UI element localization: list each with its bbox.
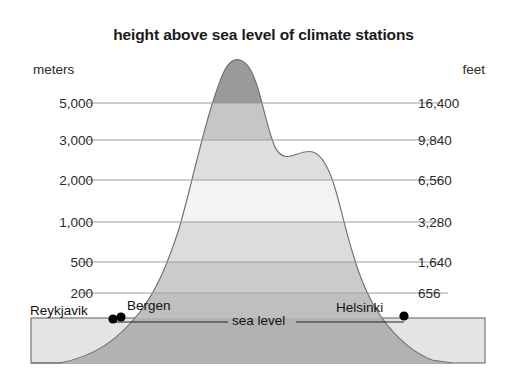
station-label-helsinki: Helsinki — [336, 300, 383, 315]
tick-label-right-3: 3,280 — [418, 215, 488, 230]
station-marker-helsinki — [399, 311, 408, 320]
station-marker-reykjavik — [108, 314, 117, 323]
station-marker-bergen — [116, 312, 125, 321]
station-label-bergen: Bergen — [127, 298, 171, 313]
tick-label-right-5: 656 — [418, 286, 488, 301]
tick-label-right-0: 16,400 — [418, 96, 488, 111]
band-above-5000 — [0, 0, 527, 103]
tick-label-left-5: 200 — [25, 286, 93, 301]
station-label-reykjavik: Reykjavik — [30, 303, 88, 318]
tick-label-left-2: 2,000 — [25, 173, 93, 188]
climate-station-elevation-chart: height above sea level of climate statio… — [0, 0, 527, 384]
tick-label-left-3: 1,000 — [25, 215, 93, 230]
tick-label-left-1: 3,000 — [25, 133, 93, 148]
tick-label-right-1: 9,840 — [418, 133, 488, 148]
tick-label-left-0: 5,000 — [25, 96, 93, 111]
sea-level-label: sea level — [232, 313, 285, 328]
tick-label-right-4: 1,640 — [418, 255, 488, 270]
tick-label-left-4: 500 — [25, 255, 93, 270]
tick-label-right-2: 6,560 — [418, 173, 488, 188]
